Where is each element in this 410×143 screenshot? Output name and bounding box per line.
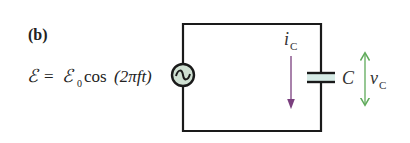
top-wire [183,24,321,73]
capacitor [307,73,335,82]
voltage-symbol: v [370,68,378,88]
ac-source [172,64,194,86]
cosine-argument: (2πft) [114,67,152,86]
panel-label: (b) [28,26,48,44]
emf-amplitude-subscript: 0 [77,78,82,89]
circuit-wires [183,24,321,131]
current-subscript: C [290,40,297,52]
emf-symbol: ℰ [27,66,40,86]
bottom-wire [183,82,321,131]
emf-amplitude-symbol: ℰ [62,66,75,86]
ac-capacitor-circuit-diagram: (b) ℰ = ℰ 0 cos (2πft) C i C v C [0,0,410,143]
voltage-subscript: C [379,79,386,91]
capacitor-dielectric [307,73,335,82]
capacitor-label: C [342,68,355,88]
emf-equation: ℰ = ℰ 0 cos (2πft) [27,66,152,89]
current-symbol: i [284,29,289,49]
cosine-function: cos [84,67,107,86]
equals-sign: = [44,67,54,86]
